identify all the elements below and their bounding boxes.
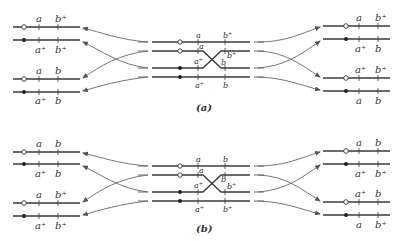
label: b⁺ [55, 13, 67, 24]
panel-b-right-arrows [258, 152, 320, 214]
arrow-icon [258, 27, 320, 42]
arrow-icon [83, 28, 148, 42]
open-circle-icon [22, 201, 27, 206]
label: b [223, 81, 228, 90]
open-circle-icon [344, 149, 349, 154]
arrow-icon [83, 201, 148, 215]
open-circle-icon [178, 40, 182, 44]
label: b⁺ [227, 182, 236, 191]
panel-a-left-group: a b⁺ a⁺ b⁺ a b a⁺ b [13, 13, 80, 106]
label: a [356, 95, 362, 106]
label: b [223, 155, 228, 164]
diagram-canvas: a b⁺ a⁺ b⁺ a b a⁺ b a b⁺ [0, 0, 405, 241]
panel-a-right-group: a b⁺ a⁺ b a⁺ b⁺ a b [323, 12, 390, 106]
panel-b-left-arrows [83, 153, 148, 215]
label: b⁺ [227, 51, 236, 60]
filled-circle-icon [344, 162, 348, 166]
panel-b-right-group: a b a⁺ b⁺ a⁺ b a b⁺ [323, 137, 390, 230]
open-circle-icon [22, 150, 27, 155]
arrow-icon [258, 152, 320, 166]
label: a⁺ [35, 44, 46, 55]
arrow-icon [83, 51, 148, 78]
panel-b-center-group: a b a b a⁺ b⁺ a⁺ b⁺ [138, 155, 264, 214]
arrow-icon [258, 175, 320, 201]
label: b⁺ [375, 168, 387, 179]
label: b⁺ [223, 31, 232, 40]
arrow-icon [258, 201, 320, 214]
arrow-icon [83, 42, 148, 68]
arrow-icon [258, 51, 320, 77]
label: a⁺ [355, 43, 366, 54]
arrow-icon [258, 165, 320, 192]
label: b⁺ [375, 219, 387, 230]
label: a [356, 12, 362, 23]
label: b⁺ [223, 205, 232, 214]
panel-a-left-arrows [83, 28, 148, 91]
filled-circle-icon [344, 89, 348, 93]
filled-circle-icon [178, 199, 182, 203]
label: a⁺ [35, 220, 46, 231]
label: b⁺ [375, 64, 387, 75]
label: b [375, 43, 381, 54]
open-circle-icon [178, 164, 182, 168]
label: b [375, 188, 381, 199]
label: a [36, 138, 42, 149]
label: a [356, 137, 362, 148]
label: b [221, 58, 226, 67]
arrow-icon [83, 166, 148, 192]
panel-a: a b⁺ a⁺ b⁺ a b a⁺ b a b⁺ [13, 12, 390, 113]
caption-b: (b) [196, 223, 213, 234]
filled-circle-icon [344, 213, 348, 217]
label: b [375, 137, 381, 148]
label: b [55, 95, 61, 106]
panel-a-center-group: a b⁺ a b⁺ a⁺ b a⁺ b [138, 31, 264, 90]
arrow-icon [258, 77, 320, 90]
filled-circle-icon [22, 90, 26, 94]
label: a [356, 219, 362, 230]
label: b⁺ [375, 12, 387, 23]
label: b⁺ [55, 220, 67, 231]
open-circle-icon [178, 49, 182, 53]
label: a⁺ [194, 57, 203, 66]
filled-circle-icon [22, 162, 26, 166]
label: a⁺ [195, 205, 204, 214]
label: a⁺ [35, 95, 46, 106]
filled-circle-icon [344, 37, 348, 41]
label: a⁺ [355, 168, 366, 179]
label: b [55, 138, 61, 149]
filled-circle-icon [22, 38, 26, 42]
open-circle-icon [344, 24, 349, 29]
open-circle-icon [178, 173, 182, 177]
filled-circle-icon [178, 75, 182, 79]
label: b [55, 65, 61, 76]
label: a⁺ [194, 181, 203, 190]
label: a [36, 13, 42, 24]
label: a⁺ [355, 188, 366, 199]
arrow-icon [258, 41, 320, 68]
label: a [196, 31, 201, 40]
panel-a-right-arrows [258, 27, 320, 90]
label: a [36, 65, 42, 76]
label: a [199, 42, 204, 51]
label: a [196, 155, 201, 164]
open-circle-icon [344, 200, 349, 205]
filled-circle-icon [178, 190, 182, 194]
label: a [199, 166, 204, 175]
open-circle-icon [22, 25, 27, 30]
label: b⁺ [55, 44, 67, 55]
arrow-icon [83, 153, 148, 166]
label: b⁺ [55, 189, 67, 200]
arrow-icon [83, 77, 148, 91]
filled-circle-icon [178, 66, 182, 70]
filled-circle-icon [22, 214, 26, 218]
label: b [375, 95, 381, 106]
panel-b-left-group: a b a⁺ b a b⁺ a⁺ b⁺ [13, 138, 80, 231]
label: a⁺ [195, 81, 204, 90]
label: b [221, 175, 226, 184]
open-circle-icon [22, 77, 27, 82]
label: a⁺ [355, 64, 366, 75]
label: a⁺ [35, 168, 46, 179]
panel-b: a b a⁺ b a b⁺ a⁺ b⁺ a b [13, 137, 390, 234]
arrow-icon [83, 175, 148, 202]
label: a [36, 189, 42, 200]
